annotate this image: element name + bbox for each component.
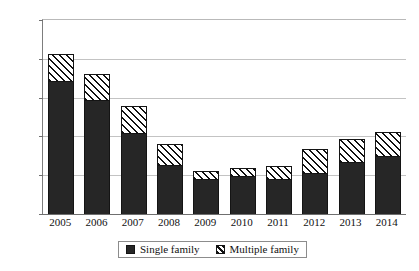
x-tick-label: 2010 bbox=[222, 216, 262, 228]
x-tick-label: 2011 bbox=[258, 216, 298, 228]
bar-group[interactable] bbox=[266, 166, 292, 214]
x-tick-label: 2013 bbox=[331, 216, 371, 228]
bar-segment-multiple-family[interactable] bbox=[157, 144, 183, 165]
bar-segment-multiple-family[interactable] bbox=[121, 106, 147, 133]
bar-segment-multiple-family[interactable] bbox=[302, 149, 328, 173]
bar-segment-multiple-family[interactable] bbox=[230, 168, 256, 176]
bar-segment-single-family[interactable] bbox=[121, 133, 147, 214]
bar-segment-single-family[interactable] bbox=[48, 81, 74, 214]
bar-segment-single-family[interactable] bbox=[157, 165, 183, 214]
bar-group[interactable] bbox=[157, 144, 183, 214]
bar-segment-multiple-family[interactable] bbox=[84, 74, 110, 100]
bar-group[interactable] bbox=[339, 139, 365, 214]
bar-group[interactable] bbox=[302, 149, 328, 214]
axis-baseline bbox=[43, 214, 406, 215]
bar-group[interactable] bbox=[84, 74, 110, 214]
y-tick-mark bbox=[39, 98, 43, 99]
x-tick-label: 2014 bbox=[367, 216, 407, 228]
stacked-bar-chart: 05001000150020002500 2005200620072008200… bbox=[0, 0, 419, 271]
y-tick-mark bbox=[39, 136, 43, 137]
y-tick-mark bbox=[39, 59, 43, 60]
bar-segment-multiple-family[interactable] bbox=[266, 166, 292, 179]
bar-group[interactable] bbox=[121, 106, 147, 214]
bar-segment-single-family[interactable] bbox=[375, 156, 401, 214]
legend-label-single-family: Single family bbox=[140, 244, 200, 255]
bar-segment-single-family[interactable] bbox=[339, 162, 365, 214]
legend-entry-single-family: Single family bbox=[126, 244, 200, 255]
bar-segment-single-family[interactable] bbox=[266, 179, 292, 214]
y-tick-mark bbox=[39, 20, 43, 21]
bar-segment-multiple-family[interactable] bbox=[48, 54, 74, 81]
x-tick-label: 2012 bbox=[294, 216, 334, 228]
bar-group[interactable] bbox=[375, 132, 401, 214]
y-tick-mark bbox=[39, 175, 43, 176]
x-tick-label: 2009 bbox=[185, 216, 225, 228]
legend-entry-multiple-family: Multiple family bbox=[216, 244, 299, 255]
chart-legend: Single family Multiple family bbox=[118, 241, 307, 258]
y-tick-mark bbox=[39, 214, 43, 215]
x-tick-label: 2006 bbox=[76, 216, 116, 228]
bar-segment-multiple-family[interactable] bbox=[193, 171, 219, 179]
bar-segment-multiple-family[interactable] bbox=[375, 132, 401, 156]
plot-area bbox=[42, 19, 406, 214]
bar-group[interactable] bbox=[193, 171, 219, 214]
bar-group[interactable] bbox=[48, 54, 74, 214]
bar-segment-single-family[interactable] bbox=[302, 173, 328, 214]
bar-segment-single-family[interactable] bbox=[193, 179, 219, 214]
bar-group[interactable] bbox=[230, 168, 256, 214]
legend-swatch-multiple-family-icon bbox=[216, 245, 225, 254]
x-tick-label: 2008 bbox=[149, 216, 189, 228]
legend-label-multiple-family: Multiple family bbox=[230, 244, 299, 255]
x-tick-label: 2005 bbox=[40, 216, 80, 228]
bar-segment-multiple-family[interactable] bbox=[339, 139, 365, 162]
bar-segment-single-family[interactable] bbox=[230, 176, 256, 214]
bar-segment-single-family[interactable] bbox=[84, 100, 110, 214]
x-tick-label: 2007 bbox=[113, 216, 153, 228]
gridline bbox=[43, 59, 406, 60]
legend-swatch-single-family-icon bbox=[126, 245, 135, 254]
